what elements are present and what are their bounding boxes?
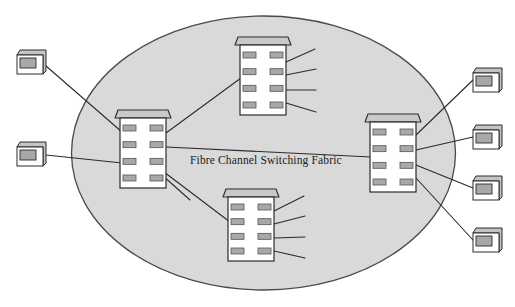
fabric-switch-right-port-left-3[interactable] (373, 162, 386, 168)
fabric-switch-bottom-lid (223, 189, 279, 197)
network-diagram-canvas: Fibre Channel Switching Fabric (0, 0, 515, 307)
fabric-switch-bottom-port-left-3[interactable] (231, 233, 244, 239)
fabric-switch-left-port-left-3[interactable] (123, 158, 136, 164)
fabric-switch-top-port-left-2[interactable] (243, 69, 256, 75)
fabric-switch-top-lid (235, 37, 291, 45)
fabric-switch-right-port-right-2[interactable] (400, 146, 413, 152)
fabric-switch-bottom-port-right-4[interactable] (258, 248, 271, 254)
fabric-switch-bottom-port-right-1[interactable] (258, 204, 271, 210)
host-node-left-upper-screen (20, 58, 36, 68)
label-layer: Fibre Channel Switching Fabric (190, 154, 342, 167)
fabric-switch-bottom-port-left-4[interactable] (231, 248, 244, 254)
network-topology-svg: Fibre Channel Switching Fabric (0, 0, 515, 307)
fabric-switch-top-port-right-1[interactable] (270, 52, 283, 58)
fabric-switch-right-port-left-4[interactable] (373, 179, 386, 185)
fabric-switch-bottom-port-right-3[interactable] (258, 233, 271, 239)
host-node-right-2-screen (476, 133, 492, 143)
host-node-right-4[interactable] (473, 228, 502, 252)
fabric-switch-bottom-port-right-2[interactable] (258, 219, 271, 225)
fabric-switch-top-port-left-1[interactable] (243, 52, 256, 58)
fabric-switch-right-lid (365, 114, 421, 122)
fabric-switch-right-port-right-4[interactable] (400, 179, 413, 185)
host-node-right-1[interactable] (473, 68, 502, 92)
fabric-switch-top-port-right-3[interactable] (270, 85, 283, 91)
fabric-switch-right-port-right-3[interactable] (400, 162, 413, 168)
fabric-switch-left-port-left-2[interactable] (123, 142, 136, 148)
fabric-switch-top-port-left-3[interactable] (243, 85, 256, 91)
fabric-label-text: Fibre Channel Switching Fabric (190, 154, 342, 167)
host-node-right-2[interactable] (473, 125, 502, 149)
host-node-left-upper[interactable] (17, 50, 46, 74)
fabric-switch-top-port-right-2[interactable] (270, 69, 283, 75)
fabric-switch-left-port-right-1[interactable] (150, 125, 163, 131)
host-node-left-lower-screen (20, 150, 36, 160)
fabric-switch-left-port-left-1[interactable] (123, 125, 136, 131)
host-node-right-4-screen (476, 236, 492, 246)
fabric-switch-left-port-left-4[interactable] (123, 175, 136, 181)
fabric-switch-top-port-left-4[interactable] (243, 102, 256, 108)
fabric-switch-top[interactable] (235, 37, 291, 115)
host-node-right-1-screen (476, 76, 492, 86)
fabric-switch-left[interactable] (115, 110, 171, 188)
fabric-switch-top-port-right-4[interactable] (270, 102, 283, 108)
fabric-switch-bottom[interactable] (223, 189, 279, 261)
fabric-switch-bottom-port-left-1[interactable] (231, 204, 244, 210)
fabric-switch-right[interactable] (365, 114, 421, 192)
fabric-switch-bottom-port-left-2[interactable] (231, 219, 244, 225)
fabric-switch-left-port-right-2[interactable] (150, 142, 163, 148)
fabric-switch-right-port-left-2[interactable] (373, 146, 386, 152)
fabric-switch-left-lid (115, 110, 171, 118)
host-node-right-3[interactable] (473, 176, 502, 200)
fabric-switch-left-port-right-4[interactable] (150, 175, 163, 181)
fabric-switch-left-port-right-3[interactable] (150, 158, 163, 164)
fabric-switch-right-port-left-1[interactable] (373, 129, 386, 135)
host-node-right-3-screen (476, 184, 492, 194)
fabric-switch-right-port-right-1[interactable] (400, 129, 413, 135)
host-node-left-lower[interactable] (17, 142, 46, 166)
